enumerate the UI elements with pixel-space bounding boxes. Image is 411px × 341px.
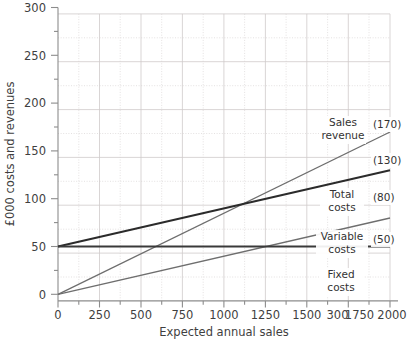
y-tick-label-0: 0 — [39, 288, 46, 302]
y-tick-label-50: 50 — [31, 240, 46, 254]
y-tick-label-250: 250 — [24, 49, 46, 63]
fixed-costs-label-line1: Fixed — [327, 268, 354, 280]
variable-costs-value: (80) — [373, 191, 395, 203]
total-costs-value: (130) — [373, 154, 401, 166]
x-tick-label-0: 0 — [54, 308, 61, 322]
x-axis-ticks — [58, 301, 390, 308]
x-axis-tick-labels: 0 250 500 750 1000 1250 1500 300 1750 20… — [54, 308, 406, 322]
x-tick-label-250: 250 — [89, 308, 111, 322]
y-axis-title: £000 costs and revenues — [3, 82, 17, 227]
y-tick-label-300: 300 — [24, 1, 46, 15]
variable-costs-annotation: Variable costs (50) — [316, 230, 407, 258]
total-costs-label-line2: costs — [328, 201, 355, 213]
sales-revenue-label-line1: Sales — [329, 116, 357, 128]
sales-revenue-annotation: Sales revenue (170) — [320, 116, 409, 144]
total-costs-label-line1: Total — [329, 188, 355, 200]
variable-costs-label-line2: costs — [328, 243, 355, 255]
chart-container: 300 250 200 150 100 50 0 0 250 500 750 1… — [0, 0, 411, 341]
y-tick-label-100: 100 — [24, 192, 46, 206]
variable-costs-label-line1: Variable — [321, 230, 364, 242]
total-costs-annotation: Total costs (80) — [320, 188, 407, 216]
y-tick-label-150: 150 — [24, 144, 46, 158]
x-tick-label-750: 750 — [171, 308, 193, 322]
sales-revenue-label-line2: revenue — [322, 129, 365, 141]
breakeven-chart: 300 250 200 150 100 50 0 0 250 500 750 1… — [0, 0, 411, 341]
sales-revenue-value: (170) — [373, 118, 401, 130]
fixed-costs-label-line2: costs — [327, 281, 354, 293]
x-tick-label-1500: 1500 — [292, 308, 321, 322]
y-axis-tick-labels: 300 250 200 150 100 50 0 — [24, 1, 46, 302]
x-tick-label-500: 500 — [130, 308, 152, 322]
x-tick-label-2000: 2000 — [377, 308, 406, 322]
fixed-costs-annotation: Fixed costs — [320, 268, 364, 296]
total-costs-value-annotation: (130) — [371, 153, 409, 168]
y-tick-label-200: 200 — [24, 96, 46, 110]
x-tick-label-1250: 1250 — [251, 308, 280, 322]
x-tick-label-1000: 1000 — [209, 308, 238, 322]
x-tick-label-1750: 1750 — [345, 308, 374, 322]
x-axis-title: Expected annual sales — [159, 325, 288, 339]
y-axis-ticks — [51, 8, 58, 295]
fixed-costs-value: (50) — [373, 233, 395, 245]
